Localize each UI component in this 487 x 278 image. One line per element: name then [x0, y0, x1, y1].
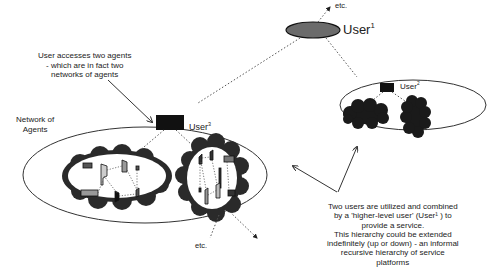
network-label-line: Agents: [16, 125, 54, 135]
annotation-top-line: networks of agents: [38, 70, 131, 80]
annotation-arrow-left: [293, 166, 337, 192]
annotation-top-arrow: [108, 80, 152, 122]
network-label-line: Network of: [16, 115, 54, 125]
etc-bottom-label: etc.: [195, 241, 207, 250]
user1-to-network-right: [326, 38, 357, 77]
user1-to-network-left: [198, 38, 300, 103]
user3-to-cloud-right: [176, 130, 192, 145]
user3-label: User3: [189, 122, 211, 132]
annotation-bottom-line: provide a service.: [327, 221, 459, 230]
annotation-bottom-line: by a 'higher-level user' (User¹ ) to: [327, 211, 459, 220]
annotation-bottom-line: This hierarchy could be extended: [327, 230, 459, 239]
annotation-bottom-line: indefinitely (up or down) - an informal: [327, 239, 459, 248]
user3-node: [156, 115, 184, 130]
user2-node: [380, 83, 394, 92]
annotation-bottom-line: platforms: [327, 258, 459, 267]
annotation-bottom: Two users are utilized and combined by a…: [327, 202, 459, 267]
etc-arrow-connector: [230, 212, 257, 238]
user2-label: User2: [400, 82, 420, 91]
etc-top-label: etc.: [335, 1, 347, 10]
user3-text: User: [189, 122, 208, 132]
user2-to-cloud-right: [392, 92, 405, 101]
annotation-bottom-line: Two users are utilized and combined: [327, 202, 459, 211]
cloud-right-b: [400, 95, 431, 138]
cloud-center: [175, 133, 249, 222]
annotation-top-line: User accesses two agents: [38, 51, 131, 61]
network-of-agents-label: Network of Agents: [16, 115, 54, 134]
user3-superscript: 3: [208, 121, 211, 127]
user2-to-cloud-left: [373, 92, 383, 100]
user1-text: User: [343, 22, 370, 37]
etc-top-connector: [318, 7, 330, 22]
annotation-bottom-line: recursive hierarchy of service: [327, 248, 459, 257]
user1-node: [286, 22, 340, 38]
annotation-arrow-right: [338, 147, 357, 192]
user2-superscript: 2: [417, 81, 420, 86]
user1-superscript: 1: [370, 21, 374, 30]
annotation-top: User accesses two agents - which are in …: [38, 51, 131, 80]
user1-label: User1: [343, 22, 375, 37]
user2-text: User: [400, 82, 417, 91]
annotation-top-line: - which are in fact two: [38, 61, 131, 71]
